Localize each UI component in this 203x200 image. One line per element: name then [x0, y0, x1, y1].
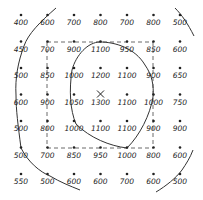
sample-dot: [20, 120, 23, 123]
sample-dot: [126, 120, 129, 123]
sample-dot: [46, 173, 49, 176]
sample-dot: [179, 67, 182, 70]
sample-value-label: 600: [173, 45, 188, 54]
sample-value-label: 900: [67, 45, 82, 54]
sample-dot: [73, 93, 76, 96]
sample-points: 4006007008007008005004507009001100950850…: [14, 14, 188, 186]
sample-dot: [46, 146, 49, 149]
sample-dot: [20, 40, 23, 43]
sample-dot: [152, 93, 155, 96]
sample-value-label: 900: [146, 124, 161, 133]
sample-dot: [73, 173, 76, 176]
sample-dot: [46, 120, 49, 123]
sample-value-label: 900: [146, 71, 161, 80]
sample-value-label: 650: [173, 71, 188, 80]
sample-dot: [46, 40, 49, 43]
sample-dot: [126, 93, 129, 96]
sample-dot: [20, 93, 23, 96]
sample-value-label: 1100: [117, 98, 136, 107]
sample-value-label: 1100: [117, 71, 136, 80]
sample-dot: [152, 146, 155, 149]
sample-value-label: 500: [173, 177, 188, 186]
sample-value-label: 500: [14, 71, 29, 80]
sample-value-label: 600: [40, 18, 55, 27]
sample-dot: [99, 146, 102, 149]
sample-value-label: 900: [40, 98, 55, 107]
sample-value-label: 1200: [91, 71, 110, 80]
sample-value-label: 500: [14, 124, 29, 133]
sample-value-label: 1000: [117, 151, 136, 160]
sample-value-label: 500: [14, 151, 29, 160]
sample-dot: [73, 146, 76, 149]
sample-dot: [126, 173, 129, 176]
sample-dot: [73, 40, 76, 43]
sample-dot: [20, 173, 23, 176]
sample-dot: [46, 14, 49, 17]
sample-value-label: 850: [67, 151, 82, 160]
sample-dot: [152, 173, 155, 176]
sample-dot: [20, 67, 23, 70]
sample-value-label: 1100: [91, 124, 110, 133]
sample-dot: [46, 93, 49, 96]
sample-dot: [152, 120, 155, 123]
sample-dot: [99, 14, 102, 17]
sample-value-label: 800: [40, 124, 55, 133]
sample-value-label: 450: [14, 45, 29, 54]
sample-dot: [179, 40, 182, 43]
sample-value-label: 700: [120, 18, 135, 27]
sample-value-label: 1100: [117, 124, 136, 133]
sample-value-label: 500: [40, 177, 55, 186]
sample-value-label: 700: [67, 18, 82, 27]
sample-value-label: 700: [40, 151, 55, 160]
sample-dot: [179, 14, 182, 17]
peak-x-marker: [97, 91, 104, 98]
sample-value-label: 600: [146, 177, 161, 186]
sample-dot: [20, 14, 23, 17]
sample-value-label: 600: [173, 151, 188, 160]
sample-value-label: 800: [93, 18, 108, 27]
sample-dot: [152, 67, 155, 70]
sample-value-label: 400: [14, 18, 29, 27]
sample-value-label: 800: [146, 18, 161, 27]
sample-dot: [179, 146, 182, 149]
sample-value-label: 850: [40, 71, 55, 80]
sample-value-label: 600: [93, 177, 108, 186]
sample-dot: [99, 67, 102, 70]
sample-value-label: 1100: [91, 45, 110, 54]
sample-value-label: 900: [173, 124, 188, 133]
sample-dot: [179, 120, 182, 123]
sample-value-label: 1000: [64, 71, 83, 80]
sample-dot: [20, 146, 23, 149]
sample-value-label: 1000: [144, 98, 163, 107]
sample-dot: [179, 173, 182, 176]
sample-value-label: 1300: [91, 98, 110, 107]
sample-value-label: 750: [173, 98, 188, 107]
sample-dot: [179, 93, 182, 96]
sample-dot: [73, 67, 76, 70]
sample-dot: [126, 40, 129, 43]
sample-dot: [152, 40, 155, 43]
sample-dot: [126, 14, 129, 17]
sample-value-label: 600: [67, 177, 82, 186]
sample-dot: [126, 67, 129, 70]
sample-value-label: 800: [146, 151, 161, 160]
sample-dot: [73, 14, 76, 17]
contour-diagram: 4006007008007008005004507009001100950850…: [0, 0, 203, 200]
sample-value-label: 700: [40, 45, 55, 54]
sample-value-label: 1050: [64, 98, 83, 107]
sample-value-label: 850: [146, 45, 161, 54]
sample-dot: [152, 14, 155, 17]
sample-dot: [99, 173, 102, 176]
sample-value-label: 1000: [64, 124, 83, 133]
sample-dot: [46, 67, 49, 70]
sample-value-label: 600: [14, 98, 29, 107]
sample-dot: [126, 146, 129, 149]
sample-value-label: 950: [93, 151, 108, 160]
sample-dot: [73, 120, 76, 123]
sample-value-label: 550: [14, 177, 29, 186]
sample-value-label: 950: [120, 45, 135, 54]
sample-value-label: 500: [173, 18, 188, 27]
sample-value-label: 700: [120, 177, 135, 186]
sample-dot: [99, 40, 102, 43]
sample-dot: [99, 120, 102, 123]
